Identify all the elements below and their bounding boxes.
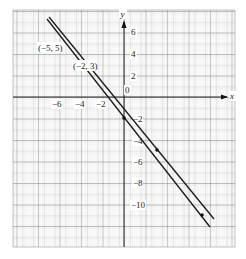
point-dot — [200, 213, 204, 217]
y-tick-label: −4 — [133, 136, 143, 146]
x-tick-label: −4 — [75, 99, 85, 109]
coordinate-graph: x y 0 6 4 2 −2 −4 −6 −8 −10 −6 −4 −2 — [0, 0, 246, 259]
point-dot — [155, 148, 159, 152]
y-tick-label: 2 — [131, 71, 136, 81]
y-tick-label: −6 — [133, 157, 143, 167]
origin-label: 0 — [125, 85, 130, 95]
y-tick-label: −10 — [131, 200, 146, 210]
x-tick-label: −2 — [96, 99, 106, 109]
y-tick-label: 6 — [131, 27, 136, 37]
point-dot — [122, 116, 126, 120]
y-tick-label: −8 — [133, 178, 143, 188]
point-label: (−2, 3) — [73, 61, 98, 71]
point-label: (−5, 5) — [38, 43, 63, 53]
y-axis-label: y — [120, 9, 125, 19]
x-tick-label: −6 — [52, 99, 62, 109]
x-tick-labels: −6 −4 −2 — [51, 99, 106, 109]
y-tick-label: 4 — [131, 49, 136, 59]
x-axis-label: x — [229, 91, 234, 101]
